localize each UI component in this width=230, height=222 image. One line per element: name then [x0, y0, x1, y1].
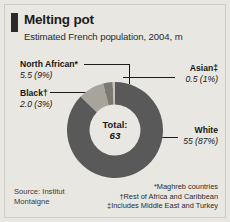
donut-slices [67, 82, 163, 178]
callout-black-value: 2.0 (3%) [20, 99, 52, 110]
callout-white: White 55 (87%) [183, 125, 218, 147]
callout-asian: Asian‡ 0.5 (1%) [186, 63, 218, 85]
callout-black-category: Black† [20, 88, 52, 99]
donut-chart-svg [66, 81, 164, 179]
footnote-one: *Maghreb countries [107, 182, 218, 191]
footnotes: *Maghreb countries †Rest of Africa and C… [107, 182, 218, 210]
footnote-three: ‡Includes Middle East and Turkey [107, 201, 218, 210]
callout-asian-value: 0.5 (1%) [186, 74, 218, 85]
chart-card: Melting pot Estimated French population,… [0, 0, 230, 222]
source-note: Source: Institut Montaigne [14, 187, 92, 206]
callout-north-african: North African* 5.5 (9%) [20, 59, 78, 81]
callout-asian-category: Asian‡ [186, 63, 218, 74]
title-marker [11, 13, 18, 32]
leader-line-asian [123, 77, 175, 78]
leader-line-north-african-horizontal [84, 64, 130, 65]
callout-white-category: White [183, 125, 218, 136]
donut-chart: Total: 63 [66, 81, 164, 179]
callout-north-african-category: North African* [20, 59, 78, 70]
callout-north-african-value: 5.5 (9%) [20, 70, 78, 81]
callout-black: Black† 2.0 (3%) [20, 88, 52, 110]
callout-white-value: 55 (87%) [183, 136, 218, 147]
page-subtitle: Estimated French population, 2004, m [24, 31, 183, 42]
leader-line-white [162, 137, 178, 138]
footnote-two: †Rest of Africa and Caribbean [107, 192, 218, 201]
page-title: Melting pot [24, 12, 94, 27]
